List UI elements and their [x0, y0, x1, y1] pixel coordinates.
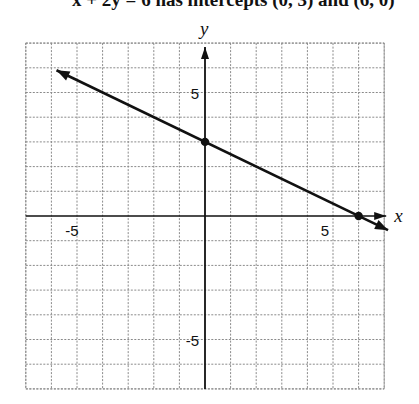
- x-tick-label: -5: [65, 222, 78, 239]
- axes: [26, 47, 386, 389]
- x-axis-label: x: [393, 205, 403, 226]
- x-tick-label: 5: [321, 222, 329, 239]
- line-x-plus-2y-equals-6: [57, 70, 389, 230]
- y-axis-arrow-icon: [201, 47, 209, 59]
- line-arrow-left-icon: [57, 70, 71, 80]
- y-tick-label: -5: [186, 332, 199, 349]
- coordinate-graph: xy-555-5: [0, 0, 419, 404]
- y-tick-label: 5: [191, 85, 199, 102]
- intercept-point: [354, 212, 362, 220]
- graph-line: [57, 70, 389, 230]
- line-arrow-right-icon: [374, 220, 388, 230]
- y-axis-label: y: [198, 18, 209, 39]
- intercept-point: [201, 138, 209, 146]
